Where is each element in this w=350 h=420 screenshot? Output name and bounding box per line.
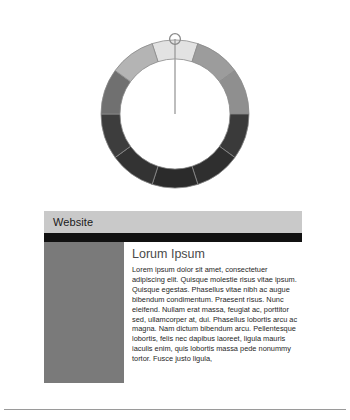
gauge-svg — [75, 14, 275, 214]
website-mock-panel: Website Lorum Ipsum Lorem ipsum dolor si… — [44, 211, 302, 383]
website-content-column: Lorum Ipsum Lorem ipsum dolor sit amet, … — [132, 246, 298, 364]
website-titlebar: Website — [44, 211, 302, 233]
website-sidebar[interactable] — [44, 242, 124, 383]
bottom-rule — [4, 409, 346, 410]
content-heading: Lorum Ipsum — [132, 246, 298, 262]
website-body: Lorum Ipsum Lorem ipsum dolor sit amet, … — [44, 242, 302, 383]
content-paragraph: Lorem ipsum dolor sit amet, consectetuer… — [132, 265, 298, 364]
donut-gauge — [75, 14, 275, 214]
gauge-segment-6 — [152, 166, 198, 188]
diagram-canvas: Website Lorum Ipsum Lorem ipsum dolor si… — [0, 0, 350, 420]
website-title: Website — [53, 214, 93, 230]
website-navbar[interactable] — [44, 233, 302, 242]
